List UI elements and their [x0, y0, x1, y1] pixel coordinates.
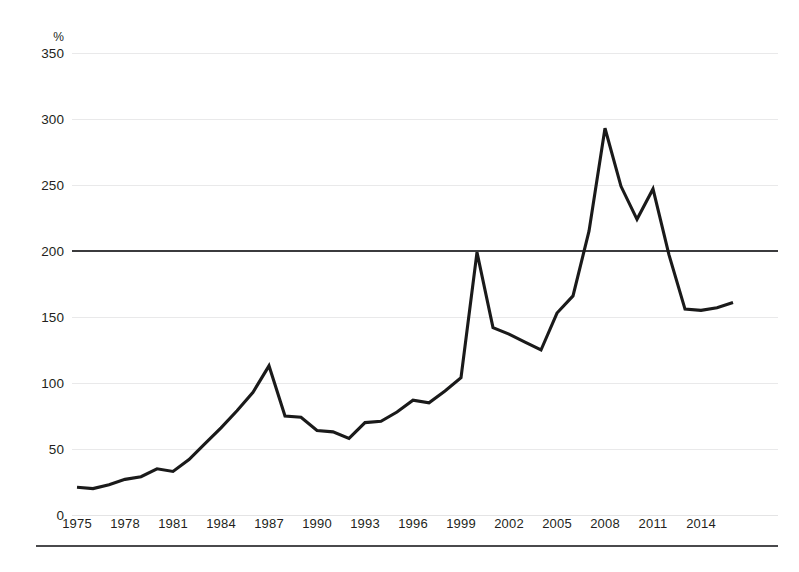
y-tick-label-150: 150	[12, 311, 64, 325]
y-tick-label-50: 50	[12, 443, 64, 457]
reference-line-200	[72, 250, 778, 252]
bottom-axis-rule	[36, 545, 778, 547]
series-line-chart	[0, 0, 799, 572]
series-line-path	[77, 128, 733, 488]
gridline-50	[72, 449, 778, 450]
y-tick-label-300: 300	[12, 113, 64, 127]
x-tick-label-2014: 2014	[671, 516, 731, 531]
gridline-350	[72, 53, 778, 54]
gridline-100	[72, 383, 778, 384]
y-tick-label-200: 200	[12, 245, 64, 259]
y-tick-label-250: 250	[12, 179, 64, 193]
gridline-250	[72, 185, 778, 186]
plot-area: % 350300250200150100500 1975197819811984…	[0, 0, 799, 572]
chart-figure: % 350300250200150100500 1975197819811984…	[0, 0, 799, 572]
y-tick-label-100: 100	[12, 377, 64, 391]
y-axis-unit-label: %	[12, 31, 64, 43]
y-tick-label-350: 350	[12, 47, 64, 61]
gridline-150	[72, 317, 778, 318]
gridline-300	[72, 119, 778, 120]
